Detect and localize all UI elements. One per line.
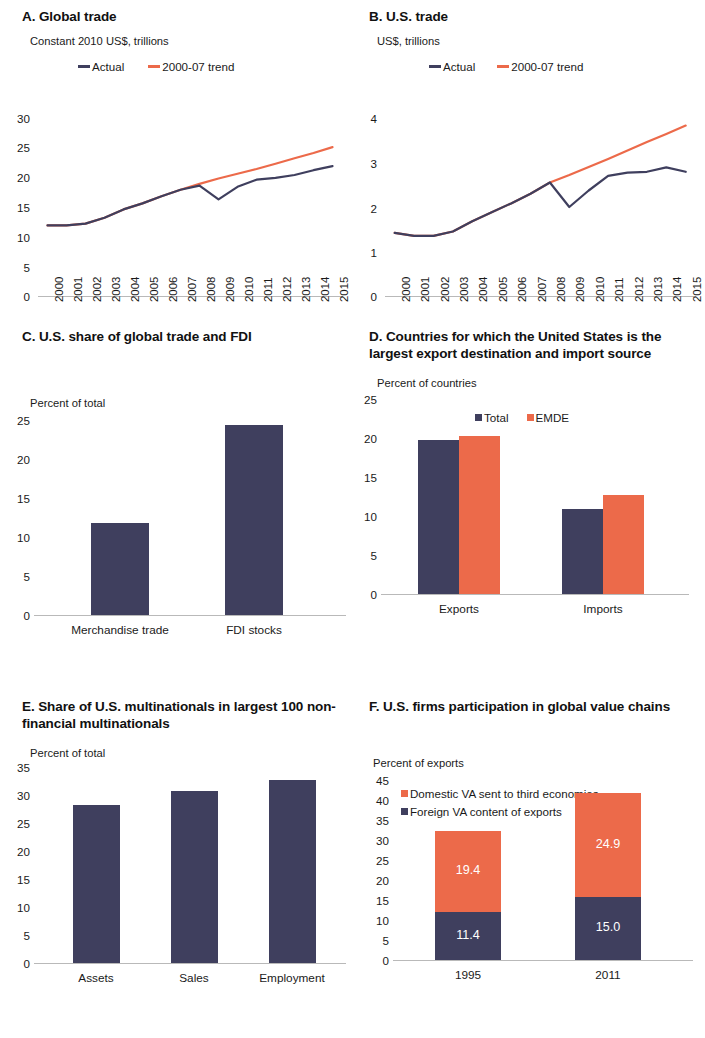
x-tick-label: 2014 <box>319 276 331 301</box>
panel-b-axis-unit: US$, trillions <box>377 35 690 47</box>
bar-exports-emde <box>459 436 500 594</box>
x-tick-label: 2009 <box>224 276 236 301</box>
panel-d-bars <box>381 391 689 594</box>
x-tick-label: 2002 <box>91 276 103 301</box>
panel-b-ytick: 3 <box>371 156 377 169</box>
x-tick-label: 2000 <box>53 276 65 301</box>
x-tick-label: 2009 <box>574 276 586 301</box>
panel-d-title: D. Countries for which the United States… <box>369 328 689 363</box>
panel-f-ytick: 0 <box>383 953 389 966</box>
bar-employment <box>269 780 316 963</box>
panel-a-axis-unit: Constant 2010 US$, trillions <box>30 35 343 47</box>
panel-c-bars <box>34 412 346 615</box>
panel-a-ytick: 30 <box>17 111 30 124</box>
series-line-2000-07-trend <box>48 147 333 225</box>
panel-d-ytick: 10 <box>364 509 377 522</box>
panel-e-baseline <box>34 963 346 964</box>
x-tick-label: 2011 <box>613 277 625 302</box>
panel-e-ytick: 0 <box>24 956 30 969</box>
panel-c-us-share: C. U.S. share of global trade and FDI Pe… <box>0 320 347 690</box>
x-category-label: Imports <box>583 602 622 616</box>
panel-a-ytick: 10 <box>17 230 30 243</box>
panel-b-y-axis: 4 3 2 1 0 <box>351 50 377 300</box>
panel-c-ytick: 15 <box>17 491 30 504</box>
panel-f-ytick: 45 <box>376 773 389 786</box>
x-category-label: Employment <box>259 971 325 985</box>
bar-1995-domestic-va-sent-to-third-economies: 19.4 <box>435 831 501 912</box>
bar-sales <box>171 791 218 963</box>
panel-d-ytick: 0 <box>371 587 377 600</box>
panel-a-lines <box>38 50 348 300</box>
panel-f-title: F. U.S. firms participation in global va… <box>369 698 689 715</box>
panel-d-ytick: 5 <box>371 548 377 561</box>
panel-e-ytick: 10 <box>17 900 30 913</box>
panel-b-lines <box>385 50 705 300</box>
bar-assets <box>73 805 120 963</box>
panel-f-ytick: 40 <box>376 793 389 806</box>
panel-b-ytick: 0 <box>371 289 377 302</box>
x-category-label: Assets <box>78 971 113 985</box>
panel-e-ytick: 15 <box>17 872 30 885</box>
panel-f-ytick: 5 <box>383 933 389 946</box>
x-tick-label: 2003 <box>110 276 122 301</box>
panel-f-ytick: 20 <box>376 873 389 886</box>
panel-d-ytick: 25 <box>364 392 377 405</box>
panel-e-axis-unit: Percent of total <box>30 747 343 759</box>
x-tick-label: 2001 <box>72 276 84 301</box>
panel-f-axis-unit: Percent of exports <box>373 757 690 769</box>
panel-e-multinationals: E. Share of U.S. multinationals in large… <box>0 690 347 1038</box>
x-tick-label: 2004 <box>477 276 489 301</box>
panel-b-us-trade: B. U.S. trade US$, trillions Actual 2000… <box>347 0 694 320</box>
panel-b-ytick: 1 <box>371 245 377 258</box>
panel-d-countries: D. Countries for which the United States… <box>347 320 694 690</box>
panel-d-ytick: 15 <box>364 470 377 483</box>
x-tick-label: 2010 <box>243 276 255 301</box>
panel-e-bars <box>34 761 346 963</box>
x-tick-label: 2014 <box>671 276 683 301</box>
x-tick-label: 2012 <box>633 276 645 301</box>
panel-a-ytick: 20 <box>17 170 30 183</box>
x-category-label: 1995 <box>455 968 481 982</box>
panel-f-ytick: 15 <box>376 893 389 906</box>
panel-d-axis-unit: Percent of countries <box>377 377 690 389</box>
x-tick-label: 2007 <box>186 276 198 301</box>
x-tick-label: 2004 <box>129 276 141 301</box>
x-category-label: Sales <box>179 971 209 985</box>
x-tick-label: 2006 <box>167 276 179 301</box>
panel-f-gvc: F. U.S. firms participation in global va… <box>347 690 694 1038</box>
panel-b-ytick: 2 <box>371 201 377 214</box>
panel-d-baseline <box>381 594 689 595</box>
panel-f-ytick: 10 <box>376 913 389 926</box>
panel-a-ytick: 0 <box>24 289 30 302</box>
panel-b-ytick: 4 <box>371 111 377 124</box>
panel-e-ytick: 25 <box>17 816 30 829</box>
x-tick-label: 2006 <box>516 276 528 301</box>
bar-value-label: 24.9 <box>575 837 641 851</box>
panel-e-ytick: 35 <box>17 760 30 773</box>
panel-a-global-trade: A. Global trade Constant 2010 US$, trill… <box>0 0 347 320</box>
panel-c-y-axis: 25 20 15 10 5 0 <box>4 412 30 622</box>
series-line-2000-07-trend <box>395 125 686 235</box>
panel-e-y-axis: 35 30 25 20 15 10 5 0 <box>4 761 30 961</box>
x-tick-label: 2005 <box>497 276 509 301</box>
x-tick-label: 2005 <box>148 276 160 301</box>
bar-value-label: 15.0 <box>575 920 641 934</box>
bar-2011-domestic-va-sent-to-third-economies: 24.9 <box>575 793 641 897</box>
x-tick-label: 2012 <box>281 276 293 301</box>
panel-e-title: E. Share of U.S. multinationals in large… <box>22 698 342 733</box>
panel-c-ytick: 20 <box>17 452 30 465</box>
panel-c-baseline <box>34 615 346 616</box>
x-tick-label: 2002 <box>439 276 451 301</box>
panel-f-ytick: 25 <box>376 853 389 866</box>
panel-c-axis-unit: Percent of total <box>30 397 343 409</box>
panel-f-ytick: 35 <box>376 813 389 826</box>
panel-c-ytick: 0 <box>24 608 30 621</box>
x-category-label: FDI stocks <box>226 623 282 637</box>
panel-a-ytick: 25 <box>17 140 30 153</box>
panel-e-ytick: 5 <box>24 928 30 941</box>
panel-c-ytick: 5 <box>24 569 30 582</box>
panel-d-y-axis: 25 20 15 10 5 0 <box>351 391 377 601</box>
panel-c-title: C. U.S. share of global trade and FDI <box>22 328 343 345</box>
bar-value-label: 11.4 <box>435 928 501 942</box>
x-tick-label: 2000 <box>400 276 412 301</box>
